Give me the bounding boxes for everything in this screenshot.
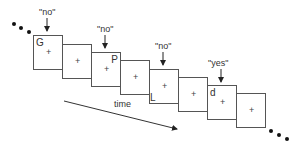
- arrows-overlay: [0, 0, 298, 146]
- time-arrow-icon: [64, 101, 177, 129]
